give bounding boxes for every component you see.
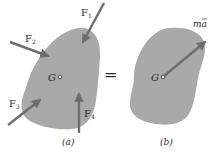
label-f1: F1 xyxy=(81,7,92,19)
equals-sign: = xyxy=(104,65,117,84)
caption-a: (a) xyxy=(62,137,75,147)
center-of-mass-point-b xyxy=(161,75,165,79)
rigid-body-b xyxy=(130,28,205,125)
force-arrow-f2 xyxy=(10,42,48,56)
label-m-a-bar: ma xyxy=(193,19,207,29)
label-f3: F3 xyxy=(9,98,20,110)
caption-b: (b) xyxy=(160,137,173,147)
center-of-mass-point-a xyxy=(58,75,62,79)
label-f2: F2 xyxy=(25,33,36,45)
center-of-mass-label-a: G xyxy=(48,72,56,83)
center-of-mass-label-b: G xyxy=(151,72,159,83)
free-body-diagram: F1 F2 F3 F4 G = G ma (a) (b) xyxy=(0,0,217,156)
